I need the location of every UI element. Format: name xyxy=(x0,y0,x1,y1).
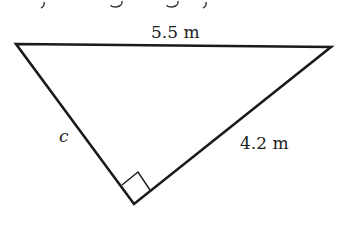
triangle-shape xyxy=(16,44,331,204)
right-angle-marker xyxy=(122,172,150,190)
leg-b-label: 4.2 m xyxy=(240,133,289,153)
partial-text-line xyxy=(41,1,206,8)
triangle-diagram: 5.5 m 4.2 m c xyxy=(0,0,345,250)
hypotenuse-label: 5.5 m xyxy=(151,22,200,42)
leg-c-label: c xyxy=(59,126,69,146)
